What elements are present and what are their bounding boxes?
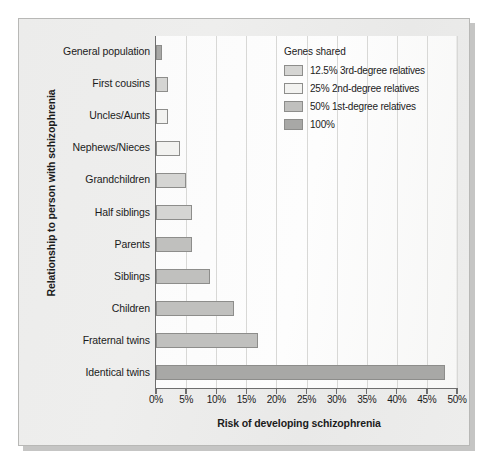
y-category-label: Half siblings	[15, 206, 150, 218]
legend-entries: 12.5% 3rd-degree relatives25% 2nd-degree…	[284, 62, 452, 132]
chart-figure-panel: Relationship to person with schizophreni…	[18, 18, 470, 446]
gridline	[457, 36, 458, 388]
legend-swatch	[284, 101, 303, 112]
bar	[156, 45, 162, 60]
y-category-label: First cousins	[15, 77, 150, 89]
bar	[156, 301, 234, 316]
legend-entry: 25% 2nd-degree relatives	[284, 80, 452, 96]
y-category-label: Nephews/Nieces	[15, 141, 150, 153]
y-category-label: Identical twins	[15, 366, 150, 378]
gridline	[276, 36, 277, 388]
y-category-label: Children	[15, 302, 150, 314]
bar	[156, 237, 192, 252]
bar	[156, 109, 168, 124]
legend-swatch	[284, 83, 303, 94]
legend-label: 25% 2nd-degree relatives	[310, 83, 419, 94]
y-category-label: Fraternal twins	[15, 334, 150, 346]
bar	[156, 173, 186, 188]
y-category-label: General population	[15, 45, 150, 57]
bar	[156, 365, 445, 380]
legend-label: 50% 1st-degree relatives	[310, 101, 416, 112]
legend-swatch	[284, 65, 303, 76]
x-tick-label: 50%	[437, 394, 477, 405]
bar	[156, 205, 192, 220]
bar	[156, 333, 258, 348]
legend-entry: 100%	[284, 116, 452, 132]
bar	[156, 141, 180, 156]
legend-title: Genes shared	[284, 46, 452, 57]
legend: Genes shared 12.5% 3rd-degree relatives2…	[284, 46, 452, 134]
legend-label: 12.5% 3rd-degree relatives	[310, 65, 425, 76]
y-category-label: Uncles/Aunts	[15, 109, 150, 121]
y-category-label: Siblings	[15, 270, 150, 282]
bar	[156, 269, 210, 284]
legend-swatch	[284, 119, 303, 130]
y-category-label: Grandchildren	[15, 173, 150, 185]
y-category-label: Parents	[15, 238, 150, 250]
legend-entry: 50% 1st-degree relatives	[284, 98, 452, 114]
bar	[156, 77, 168, 92]
plot-area: 0%5%10%15%20%25%30%35%40%45%50% General …	[155, 36, 456, 389]
legend-entry: 12.5% 3rd-degree relatives	[284, 62, 452, 78]
x-axis-title: Risk of developing schizophrenia	[139, 417, 459, 429]
legend-label: 100%	[310, 119, 335, 130]
